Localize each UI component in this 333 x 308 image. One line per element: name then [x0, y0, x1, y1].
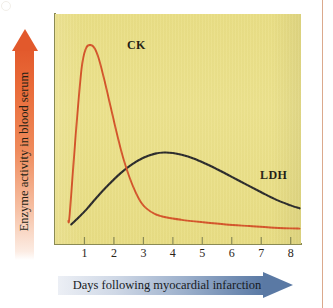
x-axis-tick-label: 8: [288, 246, 294, 261]
x-axis-tick-label: 5: [199, 246, 205, 261]
x-axis-tick-labels: 12345678: [55, 246, 301, 266]
x-axis-title-arrow: Days following myocardial infarction: [58, 272, 303, 298]
x-axis-tick-label: 6: [229, 246, 235, 261]
x-axis-tick-label: 2: [111, 246, 117, 261]
chart-curves: [55, 14, 301, 244]
y-axis-title-arrow: Enzyme activity in blood serum: [12, 30, 38, 260]
x-axis-tick-marks: [84, 237, 290, 244]
x-axis-tick-label: 7: [258, 246, 264, 261]
arrow-right-icon: [263, 272, 293, 298]
curve-ldh: [71, 152, 299, 224]
x-axis-title-text: Days following myocardial infarction: [72, 276, 262, 295]
page-corner-mark: [1, 1, 11, 11]
y-axis-title-text: Enzyme activity in blood serum: [17, 71, 32, 231]
figure-root: Enzyme activity in blood serum CK LDH 12…: [0, 0, 333, 308]
page-margin-rule: [322, 0, 323, 308]
plot-area: CK LDH: [55, 14, 301, 244]
x-axis-tick-label: 4: [170, 246, 176, 261]
y-axis-title-text-wrap: Enzyme activity in blood serum: [15, 48, 34, 254]
curve-label-ldh: LDH: [260, 168, 287, 183]
x-axis-tick-label: 1: [82, 246, 88, 261]
x-axis-tick-label: 3: [140, 246, 146, 261]
curve-label-ck: CK: [127, 38, 146, 53]
curve-ck: [68, 45, 299, 229]
